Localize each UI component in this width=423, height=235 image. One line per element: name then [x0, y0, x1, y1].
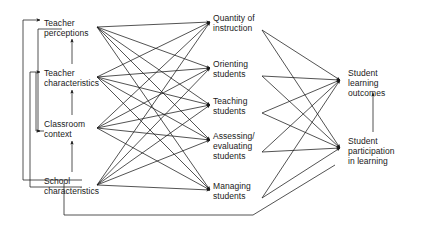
- edge-orienting_students-to-student_learning_outcomes: [262, 76, 340, 80]
- edge-assessing_evaluating-to-student_participation: [262, 148, 340, 152]
- edge-teacher_characteristics-to-quantity_of_instruction: [97, 22, 210, 77]
- edge-school-characteristics-to-teacher-perceptions: [23, 20, 82, 180]
- edge-teacher_perceptions-to-assessing_evaluating: [97, 27, 210, 140]
- edge-school_characteristics-to-quantity_of_instruction: [97, 22, 210, 185]
- node-classroom-context[interactable]: Classroom context: [44, 119, 85, 139]
- edge-teacher_perceptions-to-teaching_students: [97, 27, 210, 105]
- edge-assessing_evaluating-to-student_learning_outcomes: [262, 80, 340, 152]
- node-student-participation-in-learning[interactable]: Student participation in learning: [348, 136, 394, 167]
- edge-teacher_characteristics-to-teaching_students: [97, 77, 210, 105]
- node-teacher-perceptions[interactable]: Teacher perceptions: [44, 18, 89, 38]
- edge-teacher_perceptions-to-orienting_students: [97, 27, 210, 68]
- edge-student-participation-to-classroom-context: [64, 165, 335, 215]
- edge-classroom_context-to-quantity_of_instruction: [97, 22, 210, 128]
- edge-school_characteristics-to-orienting_students: [97, 68, 210, 185]
- edge-school_characteristics-to-managing_students: [97, 185, 210, 190]
- edge-managing_students-to-student_learning_outcomes: [262, 80, 340, 198]
- node-student-learning-outcomes[interactable]: Student learning outcomes: [348, 68, 385, 99]
- edge-quantity_of_instruction-to-student_learning_outcomes: [262, 30, 340, 80]
- node-orienting-students[interactable]: Orienting students: [213, 59, 248, 79]
- edge-teaching_students-to-student_learning_outcomes: [262, 80, 340, 113]
- node-quantity-of-instruction[interactable]: Quantity of instruction: [213, 13, 255, 33]
- edge-managing_students-to-student_participation: [262, 148, 340, 198]
- edge-classroom_context-to-orienting_students: [97, 68, 210, 128]
- node-teaching-students[interactable]: Teaching students: [213, 96, 247, 116]
- edge-classroom_context-to-managing_students: [97, 128, 210, 190]
- edge-teacher_characteristics-to-orienting_students: [97, 68, 210, 77]
- diagram-canvas: Teacher perceptions Teacher characterist…: [0, 0, 423, 235]
- edge-orienting_students-to-student_participation: [262, 76, 340, 148]
- node-assessing-evaluating-students[interactable]: Assessing/ evaluating students: [213, 131, 255, 162]
- node-teacher-characteristics[interactable]: Teacher characteristics: [44, 68, 99, 88]
- node-school-characteristics[interactable]: School characteristics: [44, 176, 99, 196]
- edge-classroom_context-to-assessing_evaluating: [97, 128, 210, 140]
- edge-teacher_perceptions-to-quantity_of_instruction: [97, 22, 210, 27]
- edge-school_characteristics-to-assessing_evaluating: [97, 140, 210, 185]
- node-managing-students[interactable]: Managing students: [213, 181, 251, 201]
